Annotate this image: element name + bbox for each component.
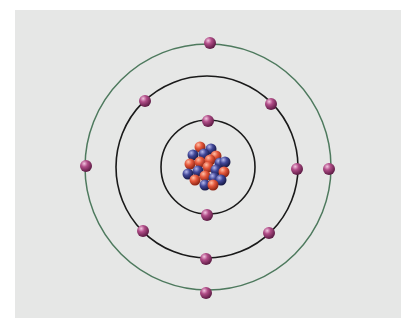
electron-icon bbox=[323, 163, 335, 175]
electron-icon bbox=[139, 95, 151, 107]
electron-icon bbox=[200, 253, 212, 265]
bohr-atom-diagram bbox=[0, 0, 413, 330]
nucleus bbox=[183, 142, 231, 191]
electron-icon bbox=[200, 287, 212, 299]
electron-icon bbox=[265, 98, 277, 110]
electron-icon bbox=[202, 115, 214, 127]
electron-icon bbox=[291, 163, 303, 175]
electron-icon bbox=[137, 225, 149, 237]
electron-icon bbox=[263, 227, 275, 239]
electron-icon bbox=[201, 209, 213, 221]
electron-icon bbox=[204, 37, 216, 49]
electron-icon bbox=[80, 160, 92, 172]
